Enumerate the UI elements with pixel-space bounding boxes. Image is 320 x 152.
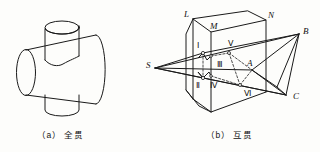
- roman-label-IV: Ⅳ: [210, 82, 217, 90]
- vertex-label-C: C: [293, 92, 299, 101]
- figure-root: S L M N B A C Ⅰ Ⅱ Ⅲ Ⅳ Ⅴ Ⅵ （a） 全贯 （b） 互贯: [0, 0, 320, 152]
- pierce-point-I: [201, 51, 204, 54]
- pierce-point-III: [210, 55, 213, 58]
- vertex-label-N: N: [268, 11, 274, 20]
- roman-label-II: Ⅱ: [196, 82, 200, 90]
- pierce-point-V: [228, 52, 231, 55]
- vertex-label-S: S: [146, 61, 151, 70]
- roman-label-I: Ⅰ: [197, 42, 199, 50]
- vertex-label-A: A: [247, 59, 253, 68]
- pierce-point-II: [201, 76, 204, 79]
- cylinder-tee-icon: [17, 21, 106, 116]
- roman-label-V: Ⅴ: [228, 40, 233, 48]
- roman-label-VI: Ⅵ: [244, 90, 251, 98]
- prism-intersection-icon: [155, 11, 299, 112]
- caption-panel-b: （b） 互贯: [206, 131, 252, 140]
- caption-panel-a: （a） 全贯: [37, 131, 83, 140]
- roman-label-III: Ⅲ: [217, 61, 223, 69]
- pierce-point-VI: [239, 84, 242, 87]
- vertex-label-B: B: [303, 27, 309, 36]
- vertex-label-L: L: [184, 10, 189, 19]
- pierce-point-IV: [210, 75, 213, 78]
- vertex-label-M: M: [210, 22, 218, 31]
